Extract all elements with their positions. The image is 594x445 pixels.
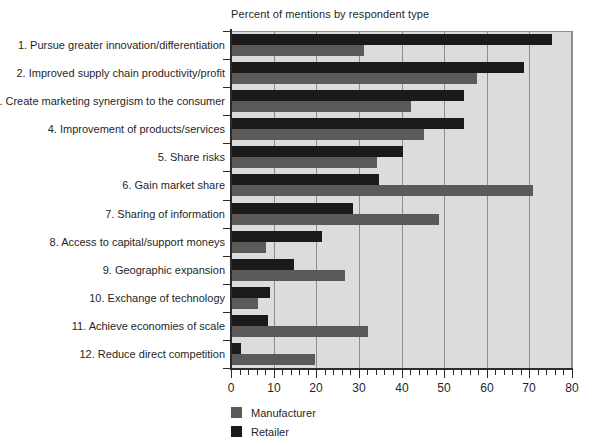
gridline-60 — [487, 31, 488, 368]
category-label-5: 5. Share risks — [158, 151, 225, 163]
bar-retailer-3 — [232, 90, 464, 101]
x-tick-label-20: 20 — [309, 381, 322, 395]
x-tick-minor-42 — [410, 370, 411, 375]
legend-label-retailer: Retailer — [251, 426, 289, 438]
category-label-12: 12. Reduce direct competition — [79, 348, 225, 360]
category-label-4: 4. Improvement of products/services — [48, 123, 225, 135]
bar-manufacturer-2 — [232, 73, 477, 84]
y-axis-tick-2 — [223, 87, 231, 88]
x-tick-minor-72 — [538, 370, 539, 375]
bar-manufacturer-3 — [232, 101, 411, 112]
x-tick-major-20 — [316, 370, 317, 378]
x-tick-minor-6 — [257, 370, 258, 375]
x-tick-major-0 — [231, 370, 232, 378]
x-tick-label-50: 50 — [437, 381, 450, 395]
bar-retailer-6 — [232, 174, 379, 185]
y-axis-tick-1 — [223, 59, 231, 60]
x-tick-minor-46 — [427, 370, 428, 375]
y-axis-tick-3 — [223, 115, 231, 116]
bar-manufacturer-12 — [232, 354, 315, 365]
bar-retailer-5 — [232, 146, 403, 157]
category-label-2: 2. Improved supply chain productivity/pr… — [17, 67, 226, 79]
legend-swatch-manufacturer-icon — [231, 407, 242, 418]
bar-retailer-4 — [232, 118, 464, 129]
y-axis-tick-7 — [223, 228, 231, 229]
x-tick-minor-18 — [308, 370, 309, 375]
x-tick-minor-4 — [248, 370, 249, 375]
x-tick-major-60 — [487, 370, 488, 378]
y-axis-tick-10 — [223, 312, 231, 313]
x-tick-major-30 — [359, 370, 360, 378]
category-label-9: 9. Geographic expansion — [103, 264, 225, 276]
x-tick-minor-68 — [521, 370, 522, 375]
bar-manufacturer-9 — [232, 270, 345, 281]
x-tick-minor-22 — [325, 370, 326, 375]
legend-item-retailer: Retailer — [231, 422, 316, 441]
bar-manufacturer-5 — [232, 157, 377, 168]
chart-title: Percent of mentions by respondent type — [231, 8, 429, 20]
x-tick-minor-24 — [333, 370, 334, 375]
y-axis-tick-4 — [223, 143, 231, 144]
x-tick-label-60: 60 — [480, 381, 493, 395]
bar-manufacturer-11 — [232, 326, 368, 337]
legend-label-manufacturer: Manufacturer — [251, 407, 316, 419]
x-tick-minor-52 — [453, 370, 454, 375]
y-axis-tick-5 — [223, 171, 231, 172]
bar-retailer-12 — [232, 343, 241, 354]
x-tick-minor-32 — [367, 370, 368, 375]
x-tick-label-70: 70 — [522, 381, 535, 395]
x-tick-major-10 — [274, 370, 275, 378]
x-tick-major-40 — [402, 370, 403, 378]
bar-manufacturer-8 — [232, 242, 266, 253]
x-tick-major-50 — [444, 370, 445, 378]
x-tick-minor-76 — [555, 370, 556, 375]
y-axis-tick-11 — [223, 340, 231, 341]
category-label-1: 1. Pursue greater innovation/differentia… — [18, 39, 225, 51]
bar-manufacturer-7 — [232, 214, 439, 225]
x-tick-minor-26 — [342, 370, 343, 375]
x-tick-minor-62 — [495, 370, 496, 375]
y-axis-tick-8 — [223, 256, 231, 257]
x-tick-minor-66 — [512, 370, 513, 375]
bar-retailer-8 — [232, 231, 322, 242]
x-tick-minor-16 — [299, 370, 300, 375]
x-tick-label-80: 80 — [565, 381, 578, 395]
gridline-70 — [529, 31, 530, 368]
bar-manufacturer-10 — [232, 298, 258, 309]
x-tick-label-40: 40 — [395, 381, 408, 395]
x-tick-minor-54 — [461, 370, 462, 375]
bar-manufacturer-6 — [232, 185, 533, 196]
x-tick-label-30: 30 — [352, 381, 365, 395]
x-tick-minor-56 — [470, 370, 471, 375]
x-tick-minor-44 — [419, 370, 420, 375]
x-tick-minor-36 — [384, 370, 385, 375]
y-axis-tick-0 — [223, 31, 231, 32]
x-tick-label-10: 10 — [267, 381, 280, 395]
x-tick-minor-64 — [504, 370, 505, 375]
category-label-7: 7. Sharing of information — [105, 208, 225, 220]
x-tick-minor-58 — [478, 370, 479, 375]
x-tick-major-80 — [572, 370, 573, 378]
bar-chart: Percent of mentions by respondent type 0… — [0, 0, 594, 445]
gridline-80 — [572, 31, 573, 368]
y-axis-tick-6 — [223, 200, 231, 201]
bar-retailer-2 — [232, 62, 524, 73]
y-axis-tick-12 — [223, 368, 231, 369]
legend-swatch-retailer-icon — [231, 426, 242, 437]
bar-retailer-1 — [232, 34, 552, 45]
category-label-8: 8. Access to capital/support moneys — [50, 236, 225, 248]
x-tick-minor-78 — [563, 370, 564, 375]
bar-retailer-7 — [232, 203, 353, 214]
bar-retailer-10 — [232, 287, 270, 298]
y-axis-tick-9 — [223, 284, 231, 285]
legend: Manufacturer Retailer — [231, 403, 316, 441]
category-label-10: 10. Exchange of technology — [89, 292, 225, 304]
x-tick-major-70 — [529, 370, 530, 378]
category-label-11: 11. Achieve economies of scale — [72, 320, 225, 332]
x-tick-minor-28 — [350, 370, 351, 375]
x-tick-minor-34 — [376, 370, 377, 375]
x-tick-minor-8 — [265, 370, 266, 375]
bar-manufacturer-1 — [232, 45, 364, 56]
x-tick-minor-14 — [291, 370, 292, 375]
legend-item-manufacturer: Manufacturer — [231, 403, 316, 422]
